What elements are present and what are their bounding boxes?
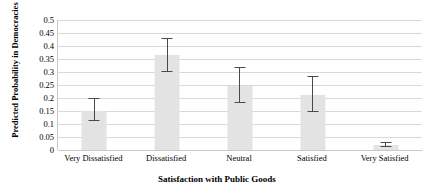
error-bar-stem <box>312 76 313 112</box>
y-tick-label: 0.3 <box>14 68 54 77</box>
error-bar <box>307 76 318 112</box>
error-bar <box>89 98 100 121</box>
error-bar-stem <box>239 67 240 103</box>
bar-group <box>131 20 204 150</box>
plot-area <box>57 20 422 150</box>
y-tick-label: 0.15 <box>14 107 54 116</box>
bar-group <box>276 20 349 150</box>
x-tick-label: Dissatisfied <box>146 153 186 164</box>
y-tick-label: 0.1 <box>14 120 54 129</box>
y-tick-label: 0.05 <box>14 133 54 142</box>
y-tick-label: 0.35 <box>14 55 54 64</box>
x-tick-label: Very Satisfied <box>361 153 409 164</box>
bar-series <box>58 20 422 150</box>
x-tick-label: Satisfied <box>297 153 327 164</box>
x-tick-label: Very Dissatisfied <box>64 153 122 164</box>
error-bar-cap-top <box>380 142 391 143</box>
error-bar-cap-top <box>307 76 318 77</box>
error-bar-stem <box>94 98 95 121</box>
error-bar-cap-top <box>234 67 245 68</box>
x-tick-label: Neutral <box>226 153 252 164</box>
y-tick-label: 0.2 <box>14 94 54 103</box>
y-tick-label: 0.25 <box>14 81 54 90</box>
error-bar <box>380 142 391 147</box>
error-bar-cap-bottom <box>380 146 391 147</box>
bar-chart: Predicted Probability in Democracies 00.… <box>0 0 434 194</box>
y-tick-label: 0.5 <box>14 16 54 25</box>
bar-group <box>58 20 131 150</box>
error-bar-cap-bottom <box>307 111 318 112</box>
bar-group <box>204 20 277 150</box>
y-tick-label: 0.4 <box>14 42 54 51</box>
error-bar-stem <box>167 38 168 72</box>
error-bar-cap-bottom <box>162 71 173 72</box>
y-tick-label: 0 <box>14 146 54 155</box>
error-bar <box>162 38 173 72</box>
y-tick-label: 0.45 <box>14 29 54 38</box>
axis-baseline <box>58 150 422 151</box>
x-axis-title: Satisfaction with Public Goods <box>0 174 434 184</box>
bar-group <box>349 20 422 150</box>
error-bar-cap-top <box>89 98 100 99</box>
error-bar-cap-top <box>162 38 173 39</box>
error-bar <box>234 67 245 103</box>
error-bar-cap-bottom <box>89 120 100 121</box>
y-axis-tick-labels: 00.050.10.150.20.250.30.350.40.450.5 <box>14 20 54 150</box>
error-bar-cap-bottom <box>234 102 245 103</box>
x-axis-tick-labels: Very DissatisfiedDissatisfiedNeutralSati… <box>57 153 421 167</box>
